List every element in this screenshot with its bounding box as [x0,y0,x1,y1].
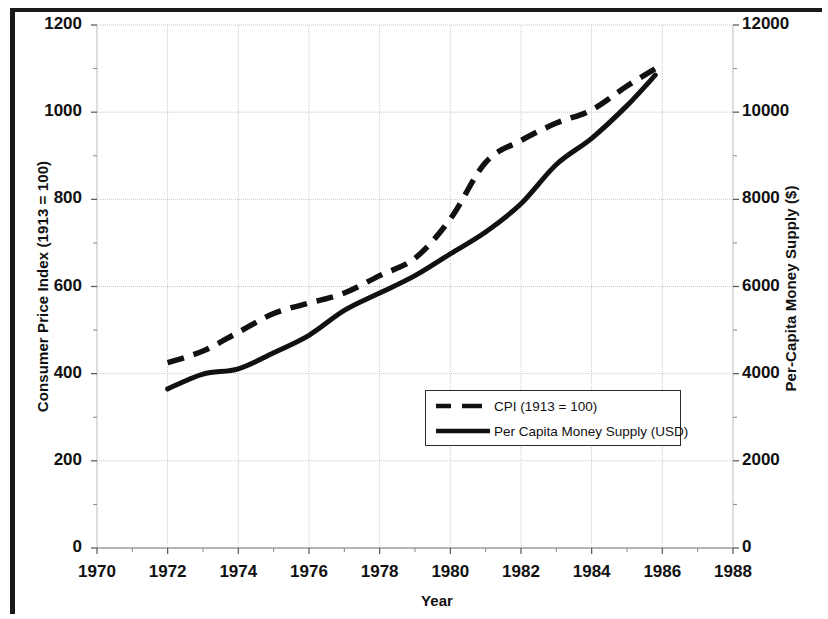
legend-item-money-supply: Per Capita Money Supply (USD) [434,418,688,444]
y-axis-right-title: Per-Capita Money Supply ($) [782,129,799,449]
ytick-left-200: 200 [12,450,82,470]
legend-key-solid [434,424,492,438]
legend-label-cpi: CPI (1913 = 100) [494,399,597,414]
y-axis-left-title: Consumer Price Index (1913 = 100) [34,127,51,447]
xtick-1980: 1980 [410,562,490,582]
legend-item-cpi: CPI (1913 = 100) [434,393,597,419]
xtick-1988: 1988 [693,562,773,582]
ytick-right-4000: 4000 [742,363,812,383]
xtick-1972: 1972 [128,562,208,582]
xtick-1984: 1984 [552,562,632,582]
ytick-right-12000: 12000 [742,14,812,34]
legend-label-money-supply: Per Capita Money Supply (USD) [494,424,688,439]
tick-marks [91,25,739,554]
ytick-right-8000: 8000 [742,188,812,208]
xtick-1970: 1970 [57,562,137,582]
series-line-2 [168,75,656,389]
legend-key-dashed [434,399,492,413]
xtick-1986: 1986 [622,562,702,582]
ytick-right-2000: 2000 [742,450,812,470]
ytick-left-1200: 1200 [12,14,82,34]
ytick-left-1000: 1000 [12,101,82,121]
data-series-layer [168,69,656,389]
ytick-right-0: 0 [742,537,812,557]
xtick-1978: 1978 [340,562,420,582]
x-axis-title: Year [97,592,777,609]
xtick-1974: 1974 [198,562,278,582]
plot-area [0,0,828,619]
ytick-right-6000: 6000 [742,276,812,296]
chart-figure: 120010008006004002000 120001000080006000… [0,0,828,619]
series-line-1 [168,69,656,363]
legend: CPI (1913 = 100) Per Capita Money Supply… [425,390,681,446]
xtick-1982: 1982 [481,562,561,582]
xtick-1976: 1976 [269,562,349,582]
gridlines [97,25,733,548]
ytick-left-0: 0 [12,537,82,557]
ytick-right-10000: 10000 [742,101,812,121]
